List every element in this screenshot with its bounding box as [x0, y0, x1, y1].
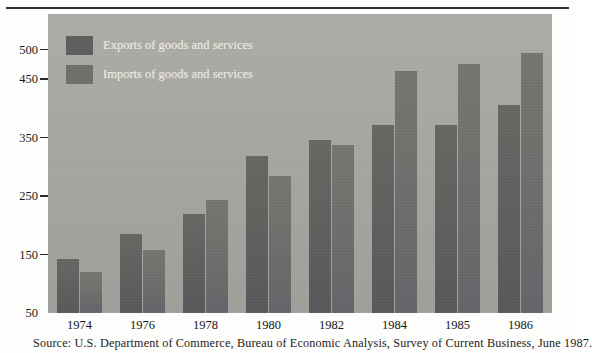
- bar-imports-1980: [269, 176, 291, 313]
- bar-exports-1982: [309, 140, 331, 313]
- x-tick-label-1985: 1985: [428, 319, 488, 332]
- x-tick-label-1980: 1980: [239, 319, 299, 332]
- bar-imports-1986: [521, 53, 543, 313]
- bar-exports-1974: [57, 259, 79, 313]
- plot-area: Exports of goods and servicesImports of …: [48, 14, 552, 313]
- bar-imports-1985: [458, 64, 480, 313]
- bar-imports-1982: [332, 145, 354, 313]
- bar-imports-1976: [143, 250, 165, 313]
- bar-imports-1974: [80, 272, 102, 313]
- y-tick-mark-350: [40, 137, 48, 139]
- y-tick-label-150: 150: [4, 249, 38, 261]
- legend-swatch-imports-icon: [66, 65, 93, 84]
- y-tick-mark-450: [40, 78, 48, 80]
- y-tick-mark-500: [40, 49, 48, 51]
- legend-swatch-exports-icon: [66, 36, 93, 55]
- y-tick-label-500: 500: [4, 44, 38, 56]
- x-tick-label-1984: 1984: [365, 319, 425, 332]
- bar-exports-1976: [120, 234, 142, 313]
- x-tick-label-1986: 1986: [491, 319, 551, 332]
- y-tick-label-350: 350: [4, 132, 38, 144]
- x-tick-label-1982: 1982: [302, 319, 362, 332]
- bar-imports-1984: [395, 71, 417, 313]
- bar-exports-1984: [372, 125, 394, 313]
- y-tick-label-50: 50: [4, 307, 38, 319]
- x-tick-label-1978: 1978: [176, 319, 236, 332]
- x-tick-label-1974: 1974: [50, 319, 110, 332]
- y-tick-label-250: 250: [4, 190, 38, 202]
- top-horizontal-rule: [6, 7, 569, 9]
- source-note: Source: U.S. Department of Commerce, Bur…: [33, 336, 592, 351]
- y-tick-mark-250: [40, 195, 48, 197]
- y-tick-mark-150: [40, 254, 48, 256]
- y-tick-label-450: 450: [4, 73, 38, 85]
- bar-exports-1978: [183, 214, 205, 313]
- x-tick-label-1976: 1976: [113, 319, 173, 332]
- legend-label: Exports of goods and services: [103, 38, 253, 53]
- legend-label: Imports of goods and services: [103, 67, 253, 82]
- bar-exports-1985: [435, 125, 457, 313]
- bar-imports-1978: [206, 200, 228, 313]
- bar-exports-1980: [246, 156, 268, 313]
- bar-exports-1986: [498, 105, 520, 313]
